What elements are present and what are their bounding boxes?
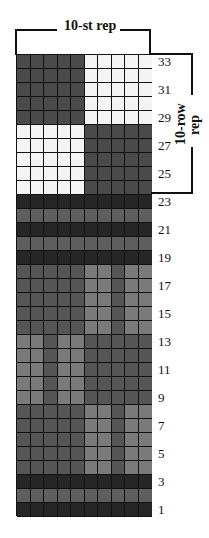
chart-cell	[112, 307, 126, 321]
chart-cell	[139, 83, 153, 97]
chart-cell	[139, 237, 153, 251]
chart-cell	[85, 97, 99, 111]
chart-cell	[71, 419, 85, 433]
chart-cell	[85, 55, 99, 69]
chart-cell	[139, 335, 153, 349]
chart-cell	[85, 321, 99, 335]
chart-cell	[31, 237, 45, 251]
chart-cell	[139, 293, 153, 307]
chart-cell	[125, 321, 139, 335]
chart-cell	[17, 251, 31, 265]
chart-cell	[31, 489, 45, 503]
chart-cell	[71, 55, 85, 69]
chart-cell	[71, 195, 85, 209]
chart-cell	[58, 251, 72, 265]
chart-cell	[17, 167, 31, 181]
chart-cell	[58, 377, 72, 391]
chart-cell	[44, 461, 58, 475]
chart-cell	[17, 307, 31, 321]
row-rep-label-line1: 10-row	[174, 103, 187, 145]
row-rep-bracket-right-upper	[191, 53, 193, 95]
chart-cell	[44, 69, 58, 83]
chart-cell	[98, 307, 112, 321]
chart-cell	[85, 363, 99, 377]
chart-cell	[44, 335, 58, 349]
chart-cell	[125, 419, 139, 433]
chart-cell	[139, 195, 153, 209]
row-label: 9	[158, 391, 165, 405]
chart-cell	[112, 153, 126, 167]
chart-cell	[71, 489, 85, 503]
chart-cell	[112, 209, 126, 223]
chart-cell	[85, 475, 99, 489]
chart-cell	[125, 349, 139, 363]
chart-cell	[98, 251, 112, 265]
chart-cell	[98, 503, 112, 517]
chart-cell	[58, 167, 72, 181]
chart-cell	[17, 209, 31, 223]
chart-cell	[139, 307, 153, 321]
chart-cell	[139, 461, 153, 475]
chart-cell	[31, 83, 45, 97]
chart-cell	[98, 237, 112, 251]
chart-cell	[58, 125, 72, 139]
chart-cell	[139, 433, 153, 447]
chart-cell	[44, 167, 58, 181]
chart-cell	[125, 377, 139, 391]
chart-cell	[112, 167, 126, 181]
chart-cell	[31, 461, 45, 475]
chart-cell	[125, 97, 139, 111]
chart-cell	[112, 237, 126, 251]
chart-cell	[58, 335, 72, 349]
chart-cell	[139, 97, 153, 111]
chart-cell	[98, 461, 112, 475]
chart-cell	[98, 279, 112, 293]
chart-cell	[139, 419, 153, 433]
chart-cell	[125, 265, 139, 279]
chart-cell	[44, 349, 58, 363]
chart-cell	[112, 363, 126, 377]
chart-cell	[125, 195, 139, 209]
col-rep-bracket-top-right	[118, 29, 151, 31]
chart-cell	[85, 391, 99, 405]
chart-cell	[125, 209, 139, 223]
chart-cell	[98, 475, 112, 489]
chart-cell	[71, 321, 85, 335]
chart-cell	[85, 195, 99, 209]
row-rep-label: 10-row rep	[170, 95, 200, 145]
row-label: 1	[158, 503, 165, 517]
chart-cell	[44, 489, 58, 503]
chart-cell	[139, 111, 153, 125]
chart-cell	[58, 195, 72, 209]
chart-cell	[58, 489, 72, 503]
chart-cell	[58, 391, 72, 405]
chart-cell	[125, 489, 139, 503]
chart-cell	[139, 475, 153, 489]
chart-cell	[58, 447, 72, 461]
chart-cell	[71, 153, 85, 167]
chart-cell	[71, 391, 85, 405]
chart-cell	[85, 461, 99, 475]
chart-cell	[85, 419, 99, 433]
chart-cell	[31, 321, 45, 335]
chart-cell	[112, 405, 126, 419]
chart-cell	[71, 405, 85, 419]
chart-cell	[112, 377, 126, 391]
chart-cell	[44, 153, 58, 167]
chart-cell	[125, 139, 139, 153]
chart-cell	[98, 405, 112, 419]
chart-cell	[71, 265, 85, 279]
chart-cell	[139, 363, 153, 377]
chart-cell	[125, 237, 139, 251]
row-label: 17	[158, 279, 171, 293]
chart-cell	[98, 195, 112, 209]
chart-cell	[139, 209, 153, 223]
chart-cell	[139, 181, 153, 195]
chart-cell	[85, 279, 99, 293]
chart-cell	[58, 349, 72, 363]
chart-cell	[44, 321, 58, 335]
chart-cell	[44, 223, 58, 237]
chart-cell	[125, 307, 139, 321]
chart-cell	[71, 251, 85, 265]
chart-cell	[17, 475, 31, 489]
